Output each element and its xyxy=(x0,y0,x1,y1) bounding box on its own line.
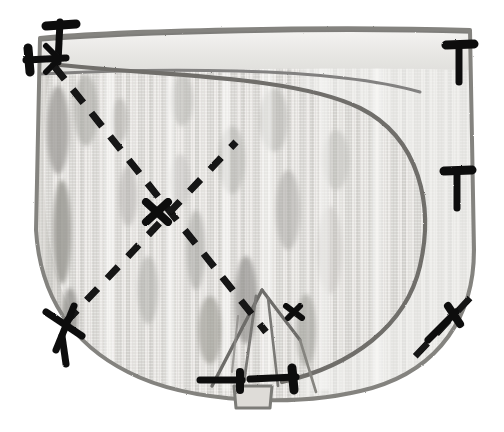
fabric-panel xyxy=(0,0,504,432)
fabric-panel-illustration xyxy=(0,0,504,432)
illustration-stage: Grayscale illustration of a fabric panel… xyxy=(0,0,504,432)
